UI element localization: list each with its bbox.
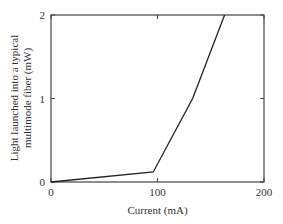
- data-line: [51, 15, 225, 182]
- y-tick-label: 1: [40, 93, 46, 105]
- y-axis-label-line-2: multimode fiber (mW): [21, 48, 34, 149]
- x-axis-label: Current (mA): [127, 204, 188, 217]
- plot-frame: [51, 15, 264, 182]
- y-axis-label: Light launched into a typical multimode …: [8, 35, 34, 161]
- chart: 0100200 012 Current (mA) Light launched …: [0, 0, 283, 224]
- x-axis-ticks: 0100200: [48, 15, 273, 198]
- y-tick-label: 2: [40, 9, 46, 21]
- y-tick-label: 0: [40, 176, 46, 188]
- x-tick-label: 0: [48, 186, 54, 198]
- x-tick-label: 200: [256, 186, 273, 198]
- x-tick-label: 100: [149, 186, 166, 198]
- y-axis-ticks: 012: [40, 9, 265, 188]
- y-axis-label-line-1: Light launched into a typical: [8, 35, 20, 161]
